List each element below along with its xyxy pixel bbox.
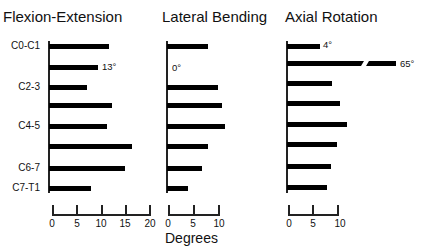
- bar-c2-3: [287, 81, 332, 86]
- annotation-65deg: 65°: [400, 58, 414, 69]
- bar-c5-6: [287, 142, 337, 147]
- x-tick-label: 5: [310, 218, 316, 229]
- x-tick-label: 0: [286, 218, 292, 229]
- x-tick: [337, 205, 339, 215]
- broken-bar-c1-2: [0, 0, 423, 252]
- x-tick-label: 10: [334, 218, 345, 229]
- x-axis-line: [288, 214, 339, 216]
- bar-c4-5: [287, 122, 347, 127]
- bar-c3-4: [287, 101, 340, 106]
- bar-c7-t1: [287, 185, 327, 190]
- x-tick: [312, 205, 314, 215]
- x-tick: [288, 205, 290, 215]
- bar-c6-7: [287, 164, 331, 169]
